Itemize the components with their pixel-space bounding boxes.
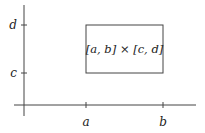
x-tick-label-a: a: [82, 115, 89, 129]
x-tick-label-b: b: [159, 115, 167, 129]
diagram-canvas: a b d c [a, b] × [c, d]: [0, 0, 205, 133]
y-tick-label-c: c: [10, 66, 17, 80]
rectangle-label: [a, b] × [c, d]: [86, 42, 164, 56]
y-tick-label-d: d: [9, 18, 17, 32]
